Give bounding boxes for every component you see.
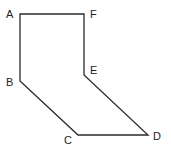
hexagon-diagram: A B C D E F <box>0 0 171 151</box>
polygon-shape <box>20 14 148 135</box>
vertex-label-a: A <box>6 8 14 20</box>
vertex-label-b: B <box>6 76 13 88</box>
vertex-label-d: D <box>153 130 161 142</box>
vertex-label-c: C <box>64 134 72 146</box>
vertex-label-e: E <box>90 64 97 76</box>
vertex-label-f: F <box>90 8 97 20</box>
